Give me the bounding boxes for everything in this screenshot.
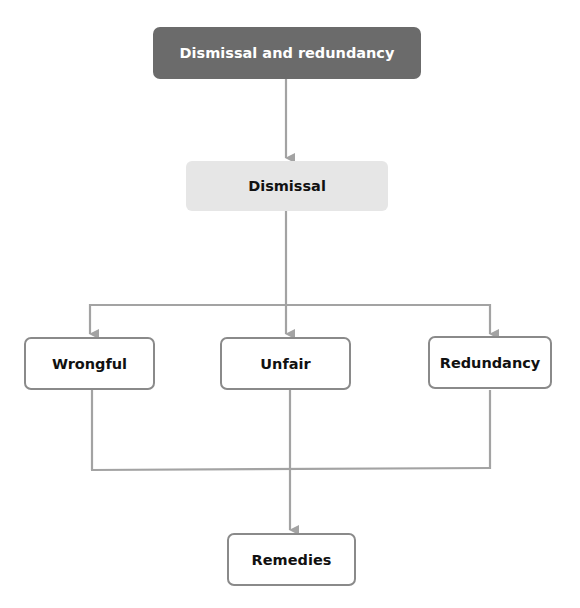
node-dismissal-and-redundancy: Dismissal and redundancy	[153, 27, 421, 79]
node-wrongful: Wrongful	[24, 337, 155, 390]
node-dismissal: Dismissal	[186, 161, 388, 211]
node-label: Dismissal and redundancy	[180, 45, 395, 61]
node-label: Wrongful	[52, 356, 127, 372]
node-label: Redundancy	[440, 355, 541, 371]
connector-lines	[0, 0, 580, 608]
node-remedies: Remedies	[227, 533, 356, 586]
node-unfair: Unfair	[220, 337, 351, 390]
node-label: Remedies	[252, 552, 332, 568]
node-label: Unfair	[260, 356, 310, 372]
node-redundancy: Redundancy	[428, 336, 552, 389]
node-label: Dismissal	[248, 178, 326, 194]
